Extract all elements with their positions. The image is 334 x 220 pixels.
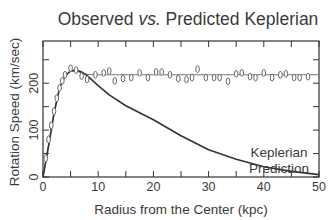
- observed-data-point: [248, 73, 252, 80]
- observed-data-point: [234, 70, 238, 77]
- observed-data-point: [270, 74, 274, 81]
- observed-data-point: [63, 71, 67, 78]
- y-tick-label: 100: [27, 120, 41, 141]
- x-tick-label: 50: [312, 180, 326, 194]
- observed-data-point: [113, 77, 117, 84]
- y-axis-label: Rotation Speed (km/sec): [7, 38, 22, 187]
- observed-data-point: [190, 74, 194, 81]
- x-axis-label: Radius from the Center (kpc): [94, 202, 267, 217]
- x-tick-label: 10: [91, 180, 105, 194]
- y-tick-label: 0: [27, 173, 41, 180]
- observed-data-point: [146, 74, 150, 81]
- observed-data-point: [55, 95, 59, 102]
- x-tick-label: 0: [40, 180, 47, 194]
- observed-data-point: [176, 75, 180, 82]
- observed-data-point: [240, 69, 244, 76]
- observed-data-point: [196, 66, 200, 73]
- x-tick-label: 40: [257, 180, 271, 194]
- rotation-curve-chart: Observed vs. Predicted Keplerian 0102030…: [0, 0, 334, 220]
- x-tick-label: 30: [202, 180, 216, 194]
- observed-data-point: [212, 74, 216, 81]
- observed-data-point: [49, 122, 53, 129]
- observed-data-point: [107, 68, 111, 75]
- observed-data-point: [138, 69, 142, 76]
- observed-data-point: [80, 73, 84, 80]
- observed-data-point: [130, 74, 134, 81]
- observed-data-point: [218, 74, 222, 81]
- observed-data-point: [154, 69, 158, 76]
- observed-data-point: [204, 74, 208, 81]
- observed-data-point: [262, 69, 266, 76]
- observed-data-point: [74, 67, 78, 74]
- observed-data-point: [160, 69, 164, 76]
- annotation-keplerian: Keplerian: [250, 145, 307, 160]
- observed-data-point: [52, 108, 56, 115]
- observed-data-point: [58, 84, 62, 91]
- observed-data-point: [61, 77, 65, 84]
- x-tick-label: 20: [146, 180, 160, 194]
- observed-data-point: [102, 69, 106, 76]
- observed-data-point: [298, 74, 302, 81]
- observed-data-point: [185, 76, 189, 83]
- observed-data-point: [226, 78, 230, 85]
- chart-title: Observed vs. Predicted Keplerian: [58, 9, 319, 29]
- observed-data-point: [284, 70, 288, 77]
- observed-data-point: [168, 71, 172, 78]
- observed-data-point: [121, 75, 125, 82]
- annotation-prediction: Prediction: [249, 161, 309, 176]
- y-tick-label: 200: [27, 73, 41, 94]
- observed-data-point: [306, 73, 310, 80]
- observed-data-point: [254, 74, 258, 81]
- observed-data-point: [292, 74, 296, 81]
- observed-data-point: [44, 155, 48, 162]
- observed-data-point: [279, 71, 283, 78]
- observed-data-point: [47, 136, 51, 143]
- observed-data-point: [85, 76, 89, 83]
- observed-data-point: [94, 71, 98, 78]
- observed-data-point: [69, 65, 73, 72]
